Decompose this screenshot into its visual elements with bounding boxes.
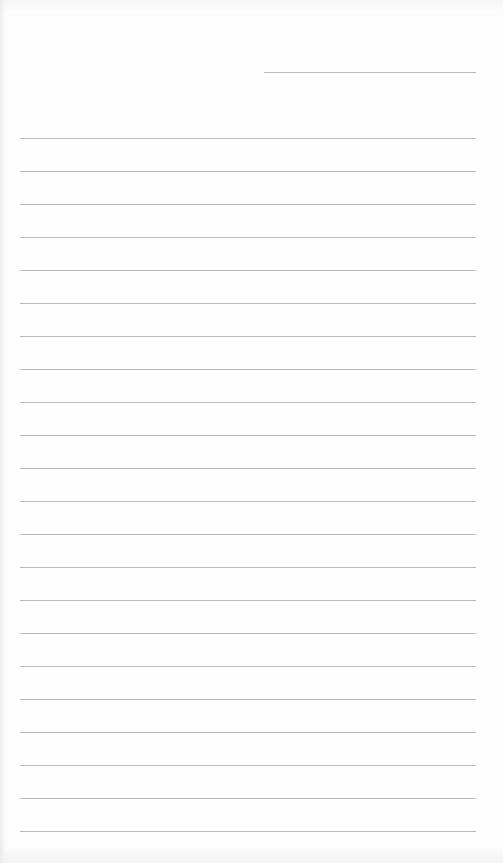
ruled-line: [20, 138, 476, 139]
ruled-line: [20, 501, 476, 502]
ruled-line: [20, 237, 476, 238]
ruled-line: [20, 567, 476, 568]
lined-paper-sheet: [0, 0, 503, 863]
ruled-line: [20, 666, 476, 667]
ruled-line: [20, 732, 476, 733]
ruled-line: [20, 468, 476, 469]
ruled-line: [20, 600, 476, 601]
ruled-line: [20, 336, 476, 337]
ruled-line: [20, 765, 476, 766]
ruled-line: [20, 171, 476, 172]
ruled-line: [20, 699, 476, 700]
paper-edge-shadow: [0, 0, 6, 863]
ruled-line: [20, 435, 476, 436]
ruled-line: [20, 831, 476, 832]
header-line: [264, 72, 476, 73]
ruled-line: [20, 270, 476, 271]
ruled-line: [20, 798, 476, 799]
ruled-line: [20, 204, 476, 205]
ruled-line: [20, 303, 476, 304]
ruled-line: [20, 633, 476, 634]
ruled-line: [20, 369, 476, 370]
ruled-line: [20, 402, 476, 403]
ruled-line: [20, 534, 476, 535]
